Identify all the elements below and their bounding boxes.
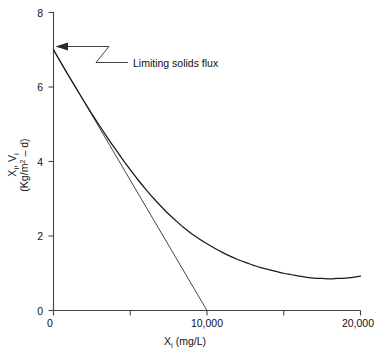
svg-text:Xi (mg/L): Xi (mg/L) bbox=[164, 335, 206, 350]
solids-flux-curve bbox=[54, 50, 361, 279]
y-axis-title-symbol-v: V bbox=[6, 155, 18, 162]
y-tick-label-6: 6 bbox=[37, 81, 43, 93]
x-axis-title: Xi (mg/L) bbox=[164, 335, 206, 350]
y-axis-title: Xi, Vi (Kg/m2 – d) bbox=[6, 138, 30, 191]
y-tick-label-8: 8 bbox=[37, 7, 43, 19]
svg-text:(Kg/m2 – d): (Kg/m2 – d) bbox=[18, 138, 30, 191]
x-axis-title-units-text: (mg/L) bbox=[176, 335, 206, 347]
annotation-label: Limiting solids flux bbox=[133, 57, 219, 69]
x-tick-labels: 0 10,000 20,000 bbox=[47, 317, 374, 329]
y-tick-label-0: 0 bbox=[37, 305, 43, 317]
x-tick-marks bbox=[54, 311, 361, 316]
y-axis-title-units-pre: (Kg/m bbox=[18, 163, 30, 191]
annotation-arrow-icon bbox=[56, 43, 69, 51]
chart-canvas: 8 6 4 2 0 0 10,000 20,000 Limiting solid… bbox=[0, 0, 381, 351]
annotation-leader-line bbox=[67, 47, 128, 63]
y-tick-label-2: 2 bbox=[37, 230, 43, 242]
x-tick-label-10000: 10,000 bbox=[191, 317, 223, 329]
limiting-solids-flux-annotation: Limiting solids flux bbox=[56, 43, 219, 69]
x-axis-title-symbol: X bbox=[164, 335, 171, 347]
y-axis-title-units-post: – d) bbox=[18, 138, 30, 159]
y-tick-marks bbox=[49, 13, 54, 311]
x-tick-label-0: 0 bbox=[47, 317, 53, 329]
x-tick-label-20000: 20,000 bbox=[342, 317, 374, 329]
y-tick-labels: 8 6 4 2 0 bbox=[37, 7, 43, 317]
y-tick-label-4: 4 bbox=[37, 156, 43, 168]
y-axis-title-symbol-x: X bbox=[6, 170, 18, 177]
